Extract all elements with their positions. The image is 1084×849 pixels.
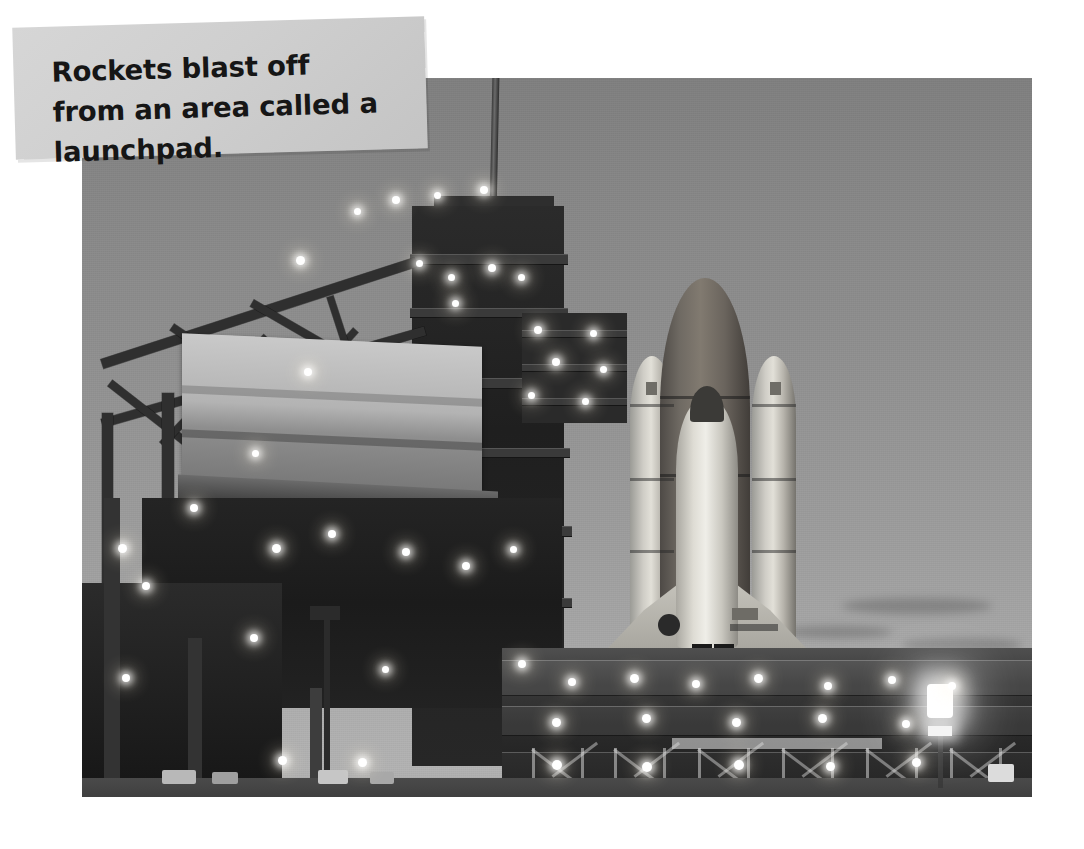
nasa-logo-icon xyxy=(658,614,680,636)
tower-leg xyxy=(104,498,120,797)
pad-light xyxy=(568,678,576,686)
pad-light xyxy=(552,760,562,770)
pad-light xyxy=(552,718,561,727)
pad-light xyxy=(888,676,896,684)
pad-light xyxy=(304,368,312,376)
pad-light xyxy=(122,674,130,682)
mobile-launcher-platform xyxy=(502,648,1032,796)
pad-vehicle xyxy=(318,770,348,784)
pad-light xyxy=(480,186,488,194)
pad-light xyxy=(534,326,542,334)
pad-light xyxy=(912,758,921,767)
pad-light xyxy=(902,720,910,728)
us-flag-icon xyxy=(732,608,758,620)
pad-light xyxy=(488,264,496,272)
pad-light xyxy=(402,548,410,556)
pad-light xyxy=(354,208,361,215)
pad-light xyxy=(582,398,589,405)
pad-light xyxy=(328,530,336,538)
launchpad-photo xyxy=(82,78,1032,797)
pad-light xyxy=(462,562,470,570)
pad-light xyxy=(510,546,517,553)
pad-light xyxy=(518,660,526,668)
rotating-service-structure xyxy=(182,333,482,497)
pad-light xyxy=(630,674,639,683)
pad-light xyxy=(118,544,127,553)
pad-light xyxy=(452,300,459,307)
orbiter-name-text xyxy=(730,624,778,631)
pad-light xyxy=(252,450,259,457)
pad-light xyxy=(416,260,423,267)
pad-light xyxy=(250,634,258,642)
pad-light xyxy=(434,192,441,199)
pad-light xyxy=(732,718,741,727)
pad-light xyxy=(190,504,198,512)
pad-light xyxy=(528,392,535,399)
pad-light xyxy=(296,256,305,265)
cloud xyxy=(842,598,992,614)
caption-callout: Rockets blast off from an area called a … xyxy=(12,16,428,159)
pad-light xyxy=(448,274,455,281)
pad-light xyxy=(642,762,652,772)
pad-light xyxy=(142,582,150,590)
pad-light xyxy=(392,196,400,204)
pad-light xyxy=(734,760,744,770)
pad-light xyxy=(518,274,525,281)
pad-light xyxy=(754,674,763,683)
pad-light xyxy=(278,756,287,765)
pad-light xyxy=(642,714,651,723)
pad-light xyxy=(818,714,827,723)
light-pole-head xyxy=(310,606,340,620)
pad-light xyxy=(948,682,956,690)
pad-light xyxy=(826,762,835,771)
pad-vehicle xyxy=(988,764,1014,782)
pad-light xyxy=(382,666,389,673)
fss-deck xyxy=(410,254,568,265)
pad-light xyxy=(824,682,832,690)
page-root: Rockets blast off from an area called a … xyxy=(0,0,1084,849)
pad-light xyxy=(590,330,597,337)
pad-vehicle xyxy=(370,772,394,784)
space-shuttle-stack xyxy=(602,278,822,698)
pad-light xyxy=(552,358,560,366)
floodlight-secondary xyxy=(928,726,952,736)
pad-light xyxy=(272,544,281,553)
caption-text: Rockets blast off from an area called a … xyxy=(51,43,384,172)
pad-vehicle xyxy=(162,770,196,784)
pad-vehicle xyxy=(212,772,238,784)
orbiter xyxy=(676,400,738,648)
pad-light xyxy=(600,366,607,373)
pad-light xyxy=(358,758,367,767)
pad-light xyxy=(692,680,700,688)
